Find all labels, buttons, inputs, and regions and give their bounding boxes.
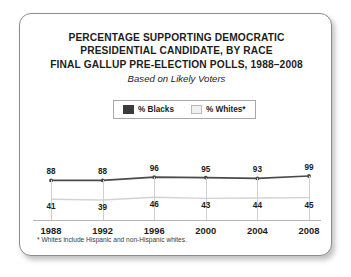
value-label-whites: 43 [201,201,210,210]
page-title-line-2: PRESIDENTIAL CANDIDATE, BY RACE [20,44,333,57]
value-label-whites: 44 [253,201,262,210]
x-axis-tick-label: 2004 [247,225,268,236]
chart-card: PERCENTAGE SUPPORTING DEMOCRATIC PRESIDE… [19,13,332,256]
gridline [309,176,310,220]
chart-title-block: PERCENTAGE SUPPORTING DEMOCRATIC PRESIDE… [20,31,333,85]
series-line [51,176,309,180]
series-lines [33,139,321,219]
value-label-blacks: 99 [304,163,313,172]
value-label-blacks: 88 [98,167,107,176]
plot-area: 8888969593994139464344451988199219962000… [33,139,321,219]
legend-item-blacks: % Blacks [123,105,174,114]
chart-legend: % Blacks % Whites* [113,100,256,119]
legend-item-whites: % Whites* [191,105,246,114]
gridline [206,178,207,220]
series-line [51,197,309,200]
page-title-line-1: PERCENTAGE SUPPORTING DEMOCRATIC [20,31,333,44]
legend-label-whites: % Whites* [206,105,246,114]
x-axis-tick-label: 2000 [195,225,216,236]
legend-swatch-dark-square-icon [123,105,134,114]
chart-page: PERCENTAGE SUPPORTING DEMOCRATIC PRESIDE… [0,0,351,277]
chart-footnote: * Whites include Hispanic and non-Hispan… [37,236,187,243]
value-label-blacks: 88 [46,167,55,176]
legend-swatch-light-square-icon [191,105,202,114]
x-axis-tick-label: 1992 [92,225,113,236]
value-label-blacks: 93 [253,165,262,174]
value-label-whites: 39 [98,203,107,212]
x-axis-tick-label: 1988 [41,225,62,236]
gridline [51,180,52,220]
gridline [154,177,155,220]
value-label-blacks: 95 [201,165,210,174]
x-axis-tick-label: 2008 [299,225,320,236]
gridline [103,180,104,220]
gridline [257,178,258,220]
x-axis-line [33,220,321,221]
value-label-whites: 41 [46,202,55,211]
value-label-whites: 45 [304,201,313,210]
value-label-blacks: 96 [150,164,159,173]
chart-subtitle: Based on Likely Voters [20,73,333,85]
page-title-line-3: FINAL GALLUP PRE-ELECTION POLLS, 1988–20… [20,58,333,71]
x-axis-tick-label: 1996 [144,225,165,236]
legend-label-blacks: % Blacks [138,105,174,114]
value-label-whites: 46 [150,200,159,209]
